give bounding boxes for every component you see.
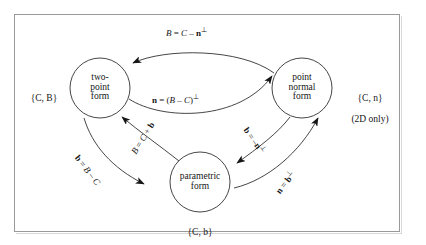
edge-arrow-tp-to-pn bbox=[129, 76, 272, 113]
edge-label-pn-to-tp: B = C – n⊥ bbox=[166, 26, 207, 38]
set-label-parametric: {C, b} bbox=[170, 216, 230, 237]
set-label-two-point-text: {C, B} bbox=[31, 93, 58, 103]
set-label-point-normal-text: {C, n} bbox=[358, 93, 383, 103]
edge-arrow-pn-to-tp bbox=[133, 53, 274, 73]
edge-arrow-pn-to-param bbox=[237, 117, 290, 163]
node-circle-two-point bbox=[70, 58, 130, 118]
edge-label-tp-to-pn: n = (B – C)⊥ bbox=[152, 93, 199, 105]
set-label-parametric-text: {C, b} bbox=[188, 227, 213, 237]
set-label-two-point: {C, B} bbox=[16, 82, 72, 103]
figure-root: two- point form point normal form parame… bbox=[0, 0, 426, 245]
set-label-point-normal-sub: (2D only) bbox=[351, 114, 388, 124]
margin-marks: · · bbox=[404, 8, 422, 42]
node-circle-point-normal bbox=[272, 58, 332, 118]
set-label-point-normal: {C, n} (2D only) bbox=[340, 82, 400, 125]
